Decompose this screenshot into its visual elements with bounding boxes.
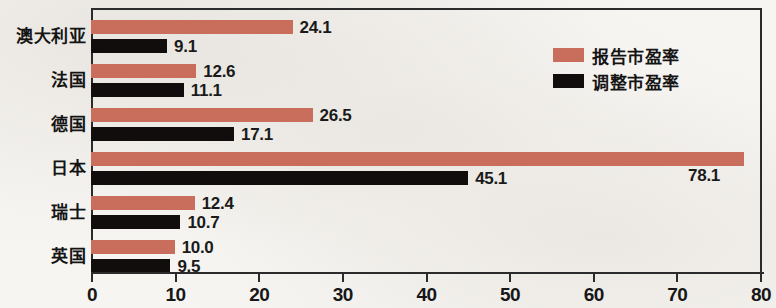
- bar-value-label-adjusted-4: 10.7: [187, 216, 219, 230]
- x-tick-label-20: 20: [249, 284, 269, 306]
- bar-value-label-adjusted-0: 9.1: [174, 40, 197, 54]
- x-tick-label-70: 70: [667, 284, 687, 306]
- bar-adjusted-2: [91, 127, 234, 141]
- legend-item-reported: 报告市盈率: [553, 42, 680, 68]
- category-axis-line: [91, 272, 764, 274]
- category-label-4: 瑞士: [0, 198, 86, 223]
- bar-adjusted-4: [91, 215, 180, 229]
- x-tick-label-80: 80: [751, 284, 771, 306]
- bar-reported-5: [91, 240, 175, 254]
- x-tick-mark-20: [258, 274, 260, 282]
- x-tick-mark-70: [676, 274, 678, 282]
- bar-value-label-reported-0: 24.1: [300, 21, 332, 35]
- x-tick-mark-50: [509, 274, 511, 282]
- x-tick-mark-10: [175, 274, 177, 282]
- bar-chart: 澳大利亚法国德国日本瑞士英国 24.19.112.611.126.517.178…: [0, 0, 776, 308]
- chart-legend: 报告市盈率 调整市盈率: [553, 42, 680, 94]
- category-label-0: 澳大利亚: [0, 22, 86, 47]
- bar-value-label-reported-4: 12.4: [202, 197, 234, 211]
- x-tick-mark-80: [760, 274, 762, 282]
- bar-reported-4: [91, 196, 195, 210]
- bar-reported-2: [91, 108, 313, 122]
- x-tick-label-40: 40: [416, 284, 436, 306]
- legend-swatch-reported-icon: [553, 48, 584, 62]
- x-tick-mark-0: [91, 274, 93, 282]
- bar-value-label-reported-5: 10.0: [182, 241, 214, 255]
- bar-adjusted-1: [91, 83, 184, 97]
- x-tick-mark-30: [342, 274, 344, 282]
- x-tick-mark-60: [593, 274, 595, 282]
- legend-label-adjusted: 调整市盈率: [592, 69, 680, 94]
- x-tick-label-50: 50: [500, 284, 520, 306]
- x-tick-mark-40: [426, 274, 428, 282]
- bar-adjusted-3: [91, 171, 468, 185]
- bar-value-label-adjusted-2: 17.1: [241, 128, 273, 142]
- bar-adjusted-0: [91, 39, 167, 53]
- legend-item-adjusted: 调整市盈率: [553, 68, 680, 94]
- bar-reported-0: [91, 20, 293, 34]
- plot-top-border: [91, 8, 762, 10]
- bar-adjusted-5: [91, 259, 170, 273]
- category-label-1: 法国: [0, 66, 86, 91]
- bar-value-label-adjusted-3: 45.1: [475, 172, 507, 186]
- x-tick-label-60: 60: [584, 284, 604, 306]
- bar-value-label-adjusted-1: 11.1: [191, 84, 222, 98]
- bar-reported-3: [91, 152, 744, 166]
- legend-label-reported: 报告市盈率: [592, 43, 680, 68]
- bar-value-label-reported-1: 12.6: [203, 65, 235, 79]
- x-tick-label-0: 0: [87, 284, 97, 306]
- x-tick-label-30: 30: [333, 284, 353, 306]
- x-tick-label-10: 10: [166, 284, 186, 306]
- legend-swatch-adjusted-icon: [553, 74, 584, 88]
- bar-value-label-reported-3: 78.1: [688, 169, 720, 183]
- category-label-2: 德国: [0, 110, 86, 135]
- category-label-3: 日本: [0, 154, 86, 179]
- category-label-5: 英国: [0, 242, 86, 267]
- bar-reported-1: [91, 64, 196, 78]
- bar-value-label-reported-2: 26.5: [320, 109, 352, 123]
- plot-right-border: [760, 8, 762, 274]
